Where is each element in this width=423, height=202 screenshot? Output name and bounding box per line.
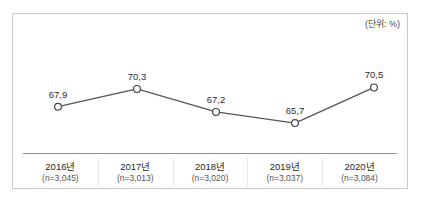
category-tick-2018년: 2018년(n=3,020): [173, 156, 248, 188]
data-point-marker: [371, 84, 378, 91]
x-axis-rule: [23, 153, 397, 154]
category-tick-2019년: 2019년(n=3,037): [247, 156, 322, 188]
category-axis: 2016년(n=3,045)2017년(n=3,013)2018년(n=3,02…: [23, 156, 397, 188]
category-sample-size: (n=3,013): [117, 173, 154, 184]
plot-area: 67,970,367,265,770,5: [13, 14, 407, 148]
category-sample-size: (n=3,045): [42, 173, 79, 184]
series-line: [58, 87, 374, 123]
category-label: 2017년: [120, 161, 150, 173]
data-point-marker: [213, 109, 220, 116]
chart-screenshot: (단위: %) 67,970,367,265,770,5 2016년(n=3,0…: [0, 0, 423, 202]
category-tick-2020년: 2020년(n=3,084): [322, 156, 397, 188]
category-label: 2016년: [45, 161, 75, 173]
data-point-label: 67,2: [207, 94, 226, 105]
category-sample-size: (n=3,020): [192, 173, 229, 184]
series-markers: [55, 84, 378, 127]
data-point-marker: [55, 103, 62, 110]
category-sample-size: (n=3,037): [266, 173, 303, 184]
category-label: 2018년: [195, 161, 225, 173]
data-point-label: 65,7: [286, 105, 305, 116]
category-tick-2016년: 2016년(n=3,045): [23, 156, 98, 188]
category-sample-size: (n=3,084): [341, 173, 378, 184]
data-point-marker: [134, 86, 141, 93]
cut-off-caption: [14, 0, 314, 6]
line-series-svg: [13, 14, 407, 148]
data-point-label: 67,9: [49, 89, 68, 100]
data-point-label: 70,3: [128, 71, 147, 82]
category-label: 2019년: [270, 161, 300, 173]
chart-frame: (단위: %) 67,970,367,265,770,5 2016년(n=3,0…: [12, 13, 408, 189]
category-label: 2020년: [345, 161, 375, 173]
data-point-label: 70,5: [365, 69, 384, 80]
data-point-marker: [292, 120, 299, 127]
category-tick-2017년: 2017년(n=3,013): [98, 156, 173, 188]
